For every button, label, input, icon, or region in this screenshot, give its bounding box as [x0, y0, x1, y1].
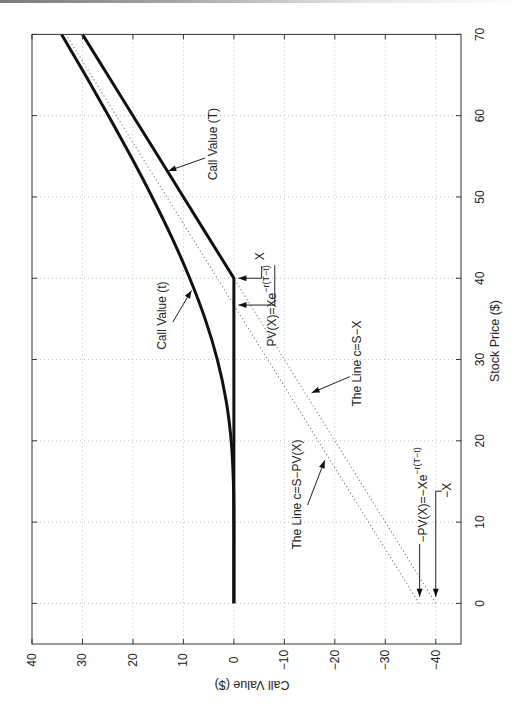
y-tick-label: −10	[277, 649, 291, 670]
figure-background	[0, 3, 524, 715]
x-tick-label: 10	[473, 515, 487, 529]
annotation-text: X	[253, 252, 267, 260]
annotation-text: Call Value (t)	[155, 281, 169, 349]
x-tick-label: 70	[473, 27, 487, 41]
y-tick-label: 0	[227, 656, 241, 663]
annotation-text: The Line c=S−PV(X)	[290, 439, 304, 549]
annotation-text-main: −X	[440, 483, 454, 498]
x-tick-label: 30	[473, 353, 487, 367]
y-tick-label: 40	[25, 653, 39, 667]
annotation-text: −X	[440, 483, 454, 498]
y-tick-label: −40	[429, 649, 443, 670]
annotation-text-main: Call Value (t)	[155, 281, 169, 349]
annotation-text: The Line c=S−X	[350, 321, 364, 407]
y-tick-label: −30	[378, 649, 392, 670]
y-tick-label: −20	[328, 649, 342, 670]
x-tick-label: 20	[473, 434, 487, 448]
annotation-text-main: Call Value (T)	[206, 108, 220, 180]
annotation-text-main: PV(X)=Xe	[265, 292, 279, 346]
x-axis-label: Stock Price ($)	[488, 300, 502, 382]
annotation-text-main: X	[253, 252, 267, 260]
y-tick-label: 30	[75, 653, 89, 667]
annotation-text-main: −PV(X)=−Xe	[416, 474, 430, 542]
x-tick-label: 60	[473, 109, 487, 123]
annotation-superscript: −r(T−t)	[412, 447, 422, 475]
annotation-superscript: −r(T−t)	[261, 265, 271, 293]
annotation-text-main: The Line c=S−X	[350, 321, 364, 407]
x-tick-label: 40	[473, 271, 487, 285]
call-value-chart: Call Value (T)Call Value (t)XPV(X)=Xe−r(…	[0, 0, 524, 715]
x-tick-label: 50	[473, 190, 487, 204]
x-tick-label: 0	[473, 600, 487, 607]
y-axis-label: Call Value ($)	[215, 678, 290, 692]
y-tick-label: 10	[176, 653, 190, 667]
y-tick-label: 20	[126, 653, 140, 667]
annotation-text-main: The Line c=S−PV(X)	[290, 439, 304, 549]
annotation-text: Call Value (T)	[206, 108, 220, 180]
